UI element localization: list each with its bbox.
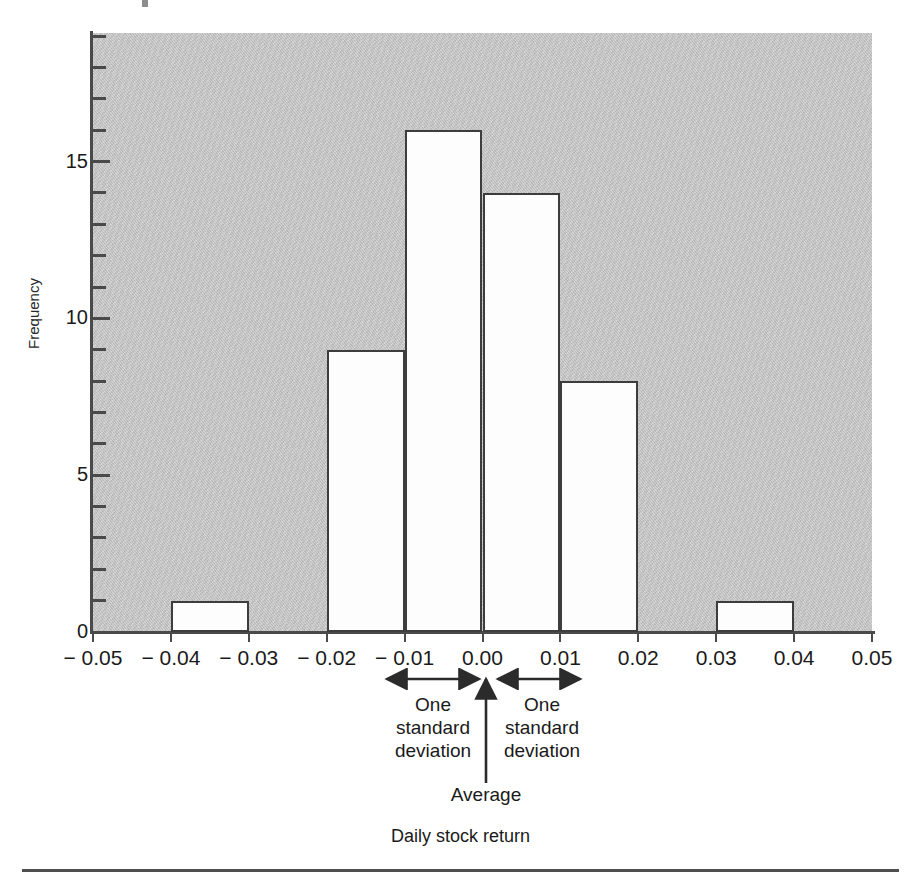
y-tick-label-5: 5 xyxy=(54,464,88,484)
x-tick-8 xyxy=(715,631,717,642)
y-tick-9 xyxy=(93,348,106,351)
y-tick-2 xyxy=(93,568,106,571)
y-tick-11 xyxy=(93,286,106,289)
y-tick-6 xyxy=(93,442,106,445)
std-dev-left-label: One standard deviation xyxy=(383,693,483,762)
x-tick-9 xyxy=(793,631,795,642)
crop-artifact-mark xyxy=(142,0,148,7)
y-tick-5 xyxy=(93,474,110,477)
y-tick-label-10: 10 xyxy=(54,307,88,327)
histogram-bar xyxy=(483,193,561,632)
x-tick-3 xyxy=(326,631,328,642)
y-tick-15 xyxy=(93,160,110,163)
x-axis-caption: Daily stock return xyxy=(0,826,921,847)
x-tick-0 xyxy=(92,631,94,642)
y-tick-10 xyxy=(93,317,110,320)
histogram-bar xyxy=(327,350,405,632)
std-dev-left-arrow-icon xyxy=(378,668,488,690)
y-tick-0 xyxy=(93,631,110,634)
histogram-bar xyxy=(171,601,249,632)
y-tick-13 xyxy=(93,223,106,226)
y-axis-title: Frequency xyxy=(25,259,42,369)
x-tick-10 xyxy=(871,631,873,642)
y-axis-line xyxy=(90,31,93,634)
y-axis-tick-labels: 051015 xyxy=(48,0,88,660)
y-tick-1 xyxy=(93,599,106,602)
y-tick-label-0: 0 xyxy=(54,621,88,641)
y-tick-17 xyxy=(93,97,106,100)
y-tick-8 xyxy=(93,380,106,383)
y-tick-3 xyxy=(93,536,106,539)
average-label: Average xyxy=(406,784,566,806)
bottom-divider xyxy=(22,869,899,872)
std-dev-right-label: One standard deviation xyxy=(492,693,592,762)
x-tick-6 xyxy=(559,631,561,642)
y-tick-4 xyxy=(93,505,106,508)
histogram-figure: 051015 Frequency − 0.05− 0.04− 0.03− 0.0… xyxy=(0,0,921,887)
y-tick-12 xyxy=(93,254,106,257)
y-tick-label-15: 15 xyxy=(54,151,88,171)
y-tick-7 xyxy=(93,411,106,414)
x-tick-4 xyxy=(404,631,406,642)
y-tick-19 xyxy=(93,35,106,38)
histogram-bar xyxy=(716,601,794,632)
histogram-bar xyxy=(405,130,483,632)
x-tick-5 xyxy=(482,631,484,642)
y-tick-18 xyxy=(93,66,106,69)
y-tick-14 xyxy=(93,191,106,194)
y-tick-16 xyxy=(93,129,106,132)
x-tick-2 xyxy=(248,631,250,642)
x-tick-7 xyxy=(637,631,639,642)
std-dev-right-arrow-icon xyxy=(489,668,589,690)
x-tick-1 xyxy=(170,631,172,642)
annotation-layer: One standard deviation One standard devi… xyxy=(0,660,921,887)
histogram-bar xyxy=(560,381,638,632)
